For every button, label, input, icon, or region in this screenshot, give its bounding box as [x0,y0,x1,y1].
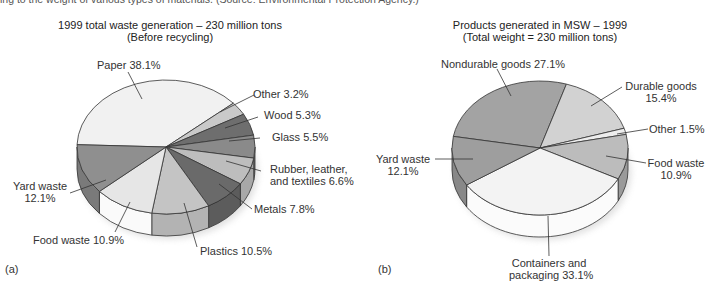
label-yard-waste-b: Yard waste 12.1% [374,153,432,177]
panel-label-b: (b) [378,263,391,275]
label-containers: Containers and packaging 33.1% [509,257,589,281]
label-food-waste-b-line2: 10.9% [647,169,705,181]
chart-a-subtitle: (Before recycling) [50,31,290,43]
label-other-b: Other 1.5% [649,123,705,135]
label-yard-waste-a-line2: 12.1% [12,192,68,204]
label-containers-line2: packaging 33.1% [509,269,589,281]
label-yard-waste-b-line2: 12.1% [374,165,432,177]
label-rubber: Rubber, leather, and textiles 6.6% [270,163,354,187]
panel-label-a: (a) [5,263,18,275]
label-rubber-line1: Rubber, leather, [270,163,354,175]
label-metals: Metals 7.8% [254,203,315,215]
label-paper: Paper 38.1% [97,59,161,71]
label-containers-line1: Containers and [509,257,589,269]
label-glass: Glass 5.5% [272,131,328,143]
label-yard-waste-a-line1: Yard waste [12,180,68,192]
chart-b-subtitle: (Total weight = 230 million tons) [430,31,650,43]
label-yard-waste-a: Yard waste 12.1% [12,180,68,204]
chart-a-title: 1999 total waste generation – 230 millio… [50,19,290,43]
label-durable: Durable goods 15.4% [624,80,698,104]
pie-chart-products-generated [435,69,648,256]
label-rubber-line2: and textiles 6.6% [270,175,354,187]
label-wood: Wood 5.3% [264,109,321,121]
label-food-waste-b: Food waste 10.9% [647,157,705,181]
label-plastics: Plastics 10.5% [200,245,272,257]
chart-b-title: Products generated in MSW – 1999 (Total … [430,19,650,43]
label-yard-waste-b-line1: Yard waste [374,153,432,165]
pie-chart-waste-generation [70,72,261,247]
chart-b-title-line1: Products generated in MSW – 1999 [430,19,650,31]
chart-a-title-line1: 1999 total waste generation – 230 millio… [50,19,290,31]
label-durable-line1: Durable goods [624,80,698,92]
label-durable-line2: 15.4% [624,92,698,104]
label-nondurable: Nondurable goods 27.1% [441,58,565,70]
label-food-waste-a: Food waste 10.9% [33,234,124,246]
label-other-a: Other 3.2% [253,88,309,100]
label-food-waste-b-line1: Food waste [647,157,705,169]
